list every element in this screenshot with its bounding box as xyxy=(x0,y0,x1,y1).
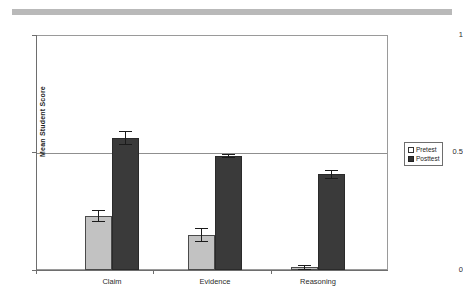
gridline-0.5 xyxy=(37,153,387,154)
errorbar-cap-top xyxy=(222,154,235,155)
legend-label-pretest: Pretest xyxy=(416,146,437,154)
errorbar-cap-bottom xyxy=(119,144,132,145)
x-tick-label-evidence: Evidence xyxy=(170,277,260,286)
errorbar-stem xyxy=(125,131,126,145)
errorbar-cap-top xyxy=(298,265,311,266)
errorbar-cap-bottom xyxy=(195,241,208,242)
legend-item-posttest[interactable]: Posttest xyxy=(408,154,439,163)
errorbar-cap-top xyxy=(119,131,132,132)
y-tick-label-1: 1 xyxy=(435,31,463,39)
legend-swatch-pretest-icon xyxy=(408,147,414,153)
x-tick-mark-claim xyxy=(36,270,37,274)
errorbar-cap-top xyxy=(92,210,105,211)
bar-reasoning-posttest xyxy=(318,174,345,270)
errorbar-evidence-posttest xyxy=(222,154,235,158)
bar-claim-posttest xyxy=(112,138,139,270)
errorbar-cap-bottom xyxy=(298,269,311,270)
errorbar-claim-posttest xyxy=(119,131,132,145)
legend-swatch-posttest-icon xyxy=(408,156,414,162)
legend: Pretest Posttest xyxy=(404,142,443,166)
x-tick-mark-reasoning xyxy=(271,270,272,274)
errorbar-cap-bottom xyxy=(222,157,235,158)
errorbar-cap-bottom xyxy=(325,178,338,179)
errorbar-reasoning-posttest xyxy=(325,170,338,179)
bar-evidence-posttest xyxy=(215,156,242,270)
x-axis-spine xyxy=(36,270,388,271)
y-tick-mark-1 xyxy=(32,35,36,36)
x-tick-label-reasoning: Reasoning xyxy=(273,277,363,286)
bar-chart-figure: 1 0.5 0 Mean Student Score Claim Evidenc xyxy=(0,0,463,305)
errorbar-cap-top xyxy=(325,170,338,171)
errorbar-stem xyxy=(201,228,202,242)
y-tick-mark-0.5 xyxy=(32,152,36,153)
y-axis-title: Mean Student Score xyxy=(39,62,46,182)
x-tick-label-claim: Claim xyxy=(67,277,157,286)
errorbar-evidence-pretest xyxy=(195,228,208,242)
errorbar-cap-top xyxy=(195,228,208,229)
errorbar-cap-bottom xyxy=(92,221,105,222)
errorbar-reasoning-pretest xyxy=(298,265,311,270)
bar-claim-pretest xyxy=(85,216,112,270)
x-tick-mark-evidence xyxy=(153,270,154,274)
legend-item-pretest[interactable]: Pretest xyxy=(408,145,439,154)
y-tick-label-0: 0 xyxy=(435,266,463,274)
errorbar-claim-pretest xyxy=(92,210,105,222)
y-axis-spine xyxy=(36,35,37,271)
legend-label-posttest: Posttest xyxy=(416,155,439,163)
